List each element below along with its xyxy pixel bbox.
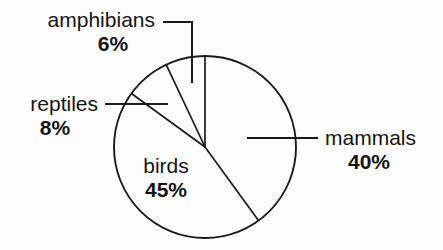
slice-label-mammals-name: mammals — [325, 126, 416, 149]
slice-divider-reptiles-amphibians — [166, 65, 205, 147]
slice-divider-birds-reptiles — [131, 94, 205, 148]
slice-label-birds-percent: 45% — [145, 178, 187, 201]
slice-label-birds-name: birds — [143, 154, 189, 177]
slice-label-reptiles-name: reptiles — [30, 92, 98, 115]
slice-label-mammals-percent: 40% — [348, 150, 390, 173]
slice-label-amphibians-name: amphibians — [48, 8, 155, 31]
pie-chart-canvas: amphibians 6% reptiles 8% mammals 40% bi… — [0, 0, 443, 250]
slice-label-reptiles-percent: 8% — [40, 116, 71, 139]
slice-divider-mammals-birds — [205, 147, 259, 221]
slice-label-amphibians-percent: 6% — [98, 32, 129, 55]
leader-line-amphibians — [163, 22, 192, 83]
pie-chart-figure: amphibians 6% reptiles 8% mammals 40% bi… — [0, 0, 443, 250]
